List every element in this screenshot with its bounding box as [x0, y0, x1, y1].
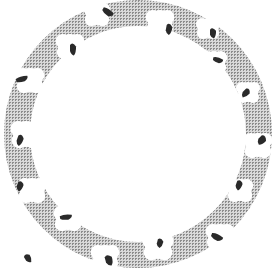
halftone-ring: [0, 0, 280, 269]
ring-diagram-canvas: [0, 0, 280, 269]
ring-diagram: [0, 0, 280, 269]
